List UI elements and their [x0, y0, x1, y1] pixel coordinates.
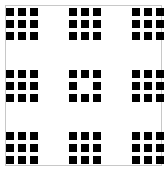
- black-square: [93, 70, 101, 78]
- black-square: [69, 82, 77, 90]
- black-square: [30, 20, 38, 28]
- black-square: [18, 20, 26, 28]
- black-square: [93, 82, 101, 90]
- black-square: [93, 32, 101, 40]
- black-square: [30, 94, 38, 102]
- square-cluster-r1-c0: [6, 70, 38, 102]
- black-square: [18, 156, 26, 164]
- black-square: [132, 132, 140, 140]
- black-square: [18, 70, 26, 78]
- black-square: [132, 156, 140, 164]
- black-square: [69, 70, 77, 78]
- black-square: [18, 32, 26, 40]
- black-square: [144, 70, 152, 78]
- black-square: [156, 94, 164, 102]
- black-square: [93, 156, 101, 164]
- black-square: [30, 82, 38, 90]
- black-square: [156, 156, 164, 164]
- black-square: [81, 70, 89, 78]
- black-square: [81, 132, 89, 140]
- black-square: [93, 94, 101, 102]
- black-square: [144, 144, 152, 152]
- black-square: [132, 144, 140, 152]
- black-square: [156, 132, 164, 140]
- black-square: [156, 70, 164, 78]
- black-square: [156, 144, 164, 152]
- black-square: [132, 20, 140, 28]
- black-square: [81, 20, 89, 28]
- black-square: [144, 82, 152, 90]
- black-square: [6, 132, 14, 140]
- black-square: [132, 94, 140, 102]
- black-square: [18, 132, 26, 140]
- black-square: [144, 156, 152, 164]
- black-square: [6, 20, 14, 28]
- black-square: [144, 8, 152, 16]
- square-cluster-r2-c2: [132, 132, 164, 164]
- black-square: [18, 8, 26, 16]
- black-square: [69, 32, 77, 40]
- square-cluster-r2-c1: [69, 132, 101, 164]
- square-cluster-r1-c2: [132, 70, 164, 102]
- black-square: [132, 70, 140, 78]
- black-square: [144, 132, 152, 140]
- black-square: [156, 82, 164, 90]
- black-square: [6, 8, 14, 16]
- black-square: [18, 82, 26, 90]
- black-square: [156, 20, 164, 28]
- black-square: [6, 32, 14, 40]
- black-square: [69, 132, 77, 140]
- black-square: [144, 32, 152, 40]
- black-square: [6, 144, 14, 152]
- black-square: [6, 94, 14, 102]
- square-cluster-r0-c2: [132, 8, 164, 40]
- black-square: [18, 94, 26, 102]
- square-cluster-r1-c1: [69, 70, 101, 102]
- black-square: [132, 32, 140, 40]
- black-square: [132, 8, 140, 16]
- black-square: [81, 32, 89, 40]
- black-square: [6, 82, 14, 90]
- black-square: [69, 8, 77, 16]
- black-square: [18, 144, 26, 152]
- black-square: [69, 94, 77, 102]
- black-square: [30, 32, 38, 40]
- black-square: [81, 94, 89, 102]
- black-square: [132, 82, 140, 90]
- black-square: [30, 144, 38, 152]
- black-square: [69, 144, 77, 152]
- black-square: [81, 8, 89, 16]
- black-square: [6, 70, 14, 78]
- black-square: [144, 20, 152, 28]
- black-square: [30, 8, 38, 16]
- black-square: [81, 144, 89, 152]
- black-square: [69, 156, 77, 164]
- black-square: [81, 156, 89, 164]
- black-square: [93, 20, 101, 28]
- square-cluster-r0-c0: [6, 8, 38, 40]
- black-square: [69, 20, 77, 28]
- black-square: [6, 156, 14, 164]
- square-cluster-r0-c1: [69, 8, 101, 40]
- black-square: [93, 8, 101, 16]
- black-square: [30, 156, 38, 164]
- black-square: [93, 144, 101, 152]
- black-square: [144, 94, 152, 102]
- black-square: [156, 8, 164, 16]
- black-square: [30, 132, 38, 140]
- black-square: [30, 70, 38, 78]
- black-square: [93, 132, 101, 140]
- square-cluster-r2-c0: [6, 132, 38, 164]
- black-square: [156, 32, 164, 40]
